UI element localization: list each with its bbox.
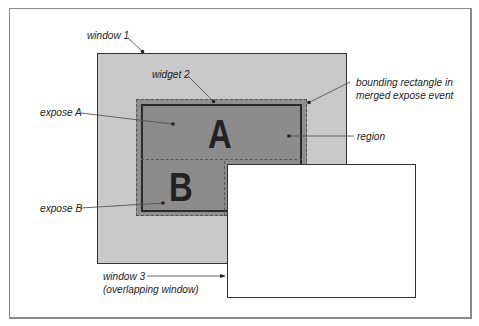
- expose-b-letter: B: [169, 167, 193, 207]
- label-expose-a: expose A: [40, 106, 82, 119]
- expose-divider-line: [141, 159, 302, 160]
- label-bounding-line-1: bounding rectangle in: [356, 76, 453, 89]
- window-3: [227, 164, 416, 298]
- label-window-1: window 1: [87, 29, 129, 42]
- label-bounding-line-2: merged expose event: [356, 89, 453, 102]
- label-window-3-line-1: window 3: [103, 270, 145, 283]
- label-window-3-line-2: (overlapping window): [103, 283, 199, 296]
- label-region: region: [357, 130, 385, 143]
- expose-a-letter: A: [208, 114, 232, 154]
- label-widget-2: widget 2: [152, 68, 190, 81]
- label-expose-b: expose B: [40, 202, 82, 215]
